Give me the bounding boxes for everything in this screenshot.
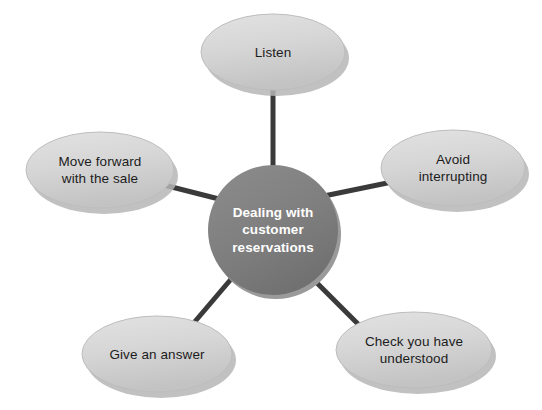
center-node-layer bbox=[208, 165, 341, 299]
center-node[interactable] bbox=[208, 165, 338, 295]
edge-center-to-give bbox=[192, 278, 232, 325]
node-check-you-have-understood[interactable] bbox=[336, 312, 492, 388]
node-move-forward-with-the-sale[interactable] bbox=[26, 132, 174, 208]
edge-center-to-check bbox=[312, 278, 364, 330]
node-avoid-interrupting[interactable] bbox=[381, 130, 525, 206]
diagram-canvas: Listen Avoid interrupting Check you have… bbox=[0, 0, 542, 410]
diagram-svg bbox=[0, 0, 542, 410]
node-give-an-answer[interactable] bbox=[82, 316, 232, 392]
edge-center-to-avoid bbox=[324, 182, 392, 196]
node-listen[interactable] bbox=[201, 14, 345, 90]
